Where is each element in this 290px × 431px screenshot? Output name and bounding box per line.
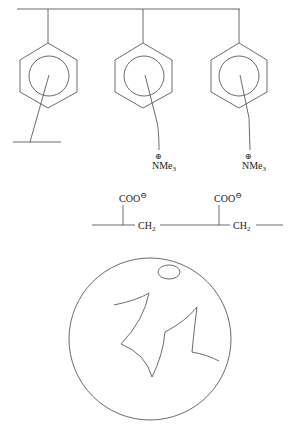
coo-label-1: COO⊖	[119, 191, 147, 204]
bead-cavity-icon	[158, 265, 180, 279]
resin-bead	[69, 258, 231, 420]
polyacrylate-chain: COO⊖ COO⊖ CH2 CH2	[92, 191, 283, 233]
benzene-ring-2: ⊕ NMe3	[115, 43, 177, 173]
ammonium-linker-2	[240, 75, 250, 150]
benzene-ring-3: ⊕ NMe3	[211, 43, 267, 173]
coo-label-2: COO⊖	[214, 191, 242, 204]
ammonium-linker-1	[145, 75, 159, 150]
polystyrene-backbone	[17, 9, 240, 43]
benzene-ring-1	[13, 43, 77, 142]
hexagon-icon	[115, 43, 172, 108]
ch2-label-1: CH2	[138, 220, 156, 233]
chemical-diagram: ⊕ NMe3 ⊕ NMe3 COO⊖ COO⊖ CH2 CH2	[0, 0, 290, 431]
nme3-label-2: NMe3	[242, 160, 267, 173]
nme3-label-1: NMe3	[152, 160, 177, 173]
bead-circle-icon	[69, 258, 231, 420]
pore-channel-icon	[114, 293, 219, 377]
aromatic-circle-icon	[219, 56, 259, 96]
crosslink-bond	[30, 75, 49, 142]
ch2-label-2: CH2	[233, 220, 251, 233]
aromatic-circle-icon	[124, 56, 164, 96]
